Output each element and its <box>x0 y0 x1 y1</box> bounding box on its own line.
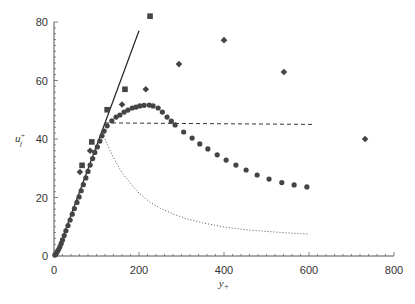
circle-marker <box>142 103 147 108</box>
circle-marker <box>74 200 79 205</box>
diamond-marker <box>143 86 150 93</box>
circle-marker <box>79 188 84 193</box>
circle-marker <box>72 206 77 211</box>
circle-marker <box>255 172 260 177</box>
diamond-marker <box>281 69 288 76</box>
chart: 0200400600800 020406080 y+ u+f <box>0 0 415 304</box>
diamond-marker <box>362 136 369 143</box>
circle-marker <box>97 138 102 143</box>
circle-marker <box>292 182 297 187</box>
circle-marker <box>279 180 284 185</box>
diamond-marker <box>119 101 126 108</box>
circle-marker <box>65 223 70 228</box>
x-tick-label: 400 <box>215 264 233 276</box>
diamond-marker <box>221 37 228 44</box>
y-tick-label: 0 <box>42 250 48 262</box>
square-marker <box>79 163 85 169</box>
plateau-line <box>105 123 313 125</box>
circle-marker <box>68 217 73 222</box>
x-tick-labels: 0200400600800 <box>51 264 403 276</box>
y-tick-labels: 020406080 <box>36 16 48 262</box>
circle-marker <box>164 114 169 119</box>
diamond-marker <box>77 169 84 176</box>
circle-marker <box>205 146 210 151</box>
square-marker <box>104 107 110 113</box>
circle-marker <box>99 133 104 138</box>
circle-marker <box>215 152 220 157</box>
data-markers <box>52 13 368 257</box>
circle-marker <box>244 167 249 172</box>
square-marker <box>147 13 153 19</box>
circle-marker <box>85 169 90 174</box>
circle-marker <box>224 157 229 162</box>
x-tick-label: 600 <box>300 264 318 276</box>
x-tick-label: 800 <box>385 264 403 276</box>
x-tick-label: 0 <box>51 264 57 276</box>
x-axis-label: y+ <box>218 277 229 291</box>
circle-marker <box>62 233 67 238</box>
circle-marker <box>156 105 161 110</box>
circle-marker <box>266 176 271 181</box>
y-tick-label: 80 <box>36 16 48 28</box>
circle-marker <box>150 103 155 108</box>
circle-marker <box>160 109 165 114</box>
square-marker <box>122 86 128 92</box>
y-axis-label: u+f <box>15 132 26 148</box>
circle-marker <box>169 119 174 124</box>
x-tick-label: 200 <box>130 264 148 276</box>
circle-marker <box>90 156 95 161</box>
circle-marker <box>190 136 195 141</box>
circle-marker <box>70 212 75 217</box>
circle-marker <box>95 144 100 149</box>
circle-marker <box>76 194 81 199</box>
x-minor-ticks <box>54 252 394 256</box>
circle-marker <box>109 118 114 123</box>
diamond-marker <box>176 61 183 68</box>
circle-marker <box>117 112 122 117</box>
y-tick-label: 60 <box>36 75 48 87</box>
y-tick-label: 40 <box>36 133 48 145</box>
axes: 0200400600800 020406080 y+ u+f <box>15 16 403 291</box>
y-tick-label: 20 <box>36 192 48 204</box>
circle-marker <box>83 175 88 180</box>
circle-marker <box>81 182 86 187</box>
circle-marker <box>173 122 178 127</box>
square-marker <box>89 139 95 145</box>
circle-marker <box>102 129 107 134</box>
circle-marker <box>63 228 68 233</box>
circle-marker <box>197 141 202 146</box>
decay-line <box>105 139 309 234</box>
y-minor-ticks <box>54 22 58 256</box>
circle-marker <box>105 123 110 128</box>
circle-marker <box>304 184 309 189</box>
circle-marker <box>88 162 93 167</box>
circle-marker <box>181 129 186 134</box>
circle-marker <box>233 162 238 167</box>
